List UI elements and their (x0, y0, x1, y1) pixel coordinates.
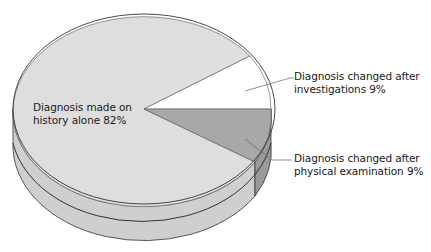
label-investigations-line1: Diagnosis changed after (294, 70, 420, 83)
label-physical-line2: physical examination 9% (294, 165, 423, 178)
label-physical-line1: Diagnosis changed after (294, 152, 423, 165)
label-investigations-line2: investigations 9% (294, 83, 420, 96)
label-history-line1: Diagnosis made on (33, 101, 132, 114)
label-investigations: Diagnosis changed after investigations 9… (294, 70, 420, 95)
label-history-line2: history alone 82% (33, 114, 132, 127)
pie-chart-3d (0, 0, 431, 252)
label-history: Diagnosis made on history alone 82% (33, 101, 132, 126)
label-physical: Diagnosis changed after physical examina… (294, 152, 423, 177)
